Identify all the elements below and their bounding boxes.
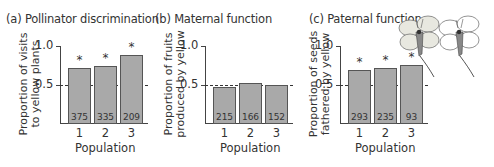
bar-population-2: 235 [374,68,397,124]
sample-size-label: 93 [401,112,422,122]
bar-population-1: 293 [348,70,371,124]
sample-size-label: 235 [375,112,396,122]
significance-star: * [376,53,396,67]
sample-size-label: 293 [349,112,370,122]
y-tick-mark [336,46,340,47]
x-tick-label: 1 [350,126,370,140]
white-flower-icon [436,14,484,78]
y-tick-label: 0.5 [315,77,333,91]
x-axis-label: Population [355,141,415,155]
x-tick-label: 2 [376,126,396,140]
y-tick-label: 1.0 [315,38,333,52]
significance-star: * [350,55,370,69]
x-tick-label: 3 [402,126,422,140]
